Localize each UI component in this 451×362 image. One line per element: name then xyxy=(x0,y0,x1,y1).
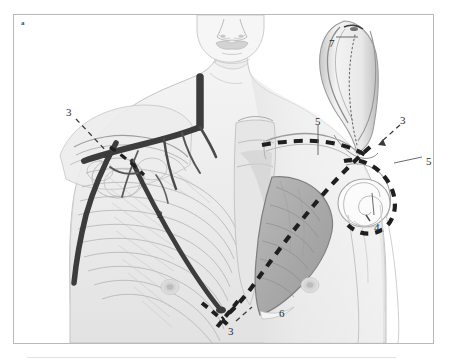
caption-divider-rule xyxy=(27,357,396,358)
callout-3-upper-left[interactable]: 3 xyxy=(66,107,72,118)
callout-4-right[interactable]: 4 xyxy=(374,222,380,233)
callout-6-bottom[interactable]: 6 xyxy=(279,308,285,319)
head-and-face xyxy=(197,15,264,64)
callout-3-bottom[interactable]: 3 xyxy=(228,326,234,337)
figure-frame: a xyxy=(13,14,434,344)
panel-label: a xyxy=(21,20,25,27)
callout-3-upper-right[interactable]: 3 xyxy=(400,115,406,126)
anatomical-illustration xyxy=(14,15,433,343)
callout-2-center-left[interactable]: 2 xyxy=(157,209,163,220)
callout-5-right[interactable]: 5 xyxy=(426,156,432,167)
callout-5-upper-mid[interactable]: 5 xyxy=(315,116,321,127)
callout-7-top-right[interactable]: 7 xyxy=(329,38,335,49)
